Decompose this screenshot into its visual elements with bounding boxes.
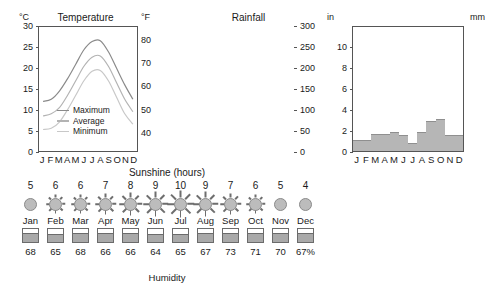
sun-ray (146, 194, 151, 199)
sun-ray (255, 195, 257, 198)
sun-ray (185, 208, 191, 214)
sun-ray (180, 190, 182, 197)
sun-ray (110, 208, 114, 212)
humidity-gauge (247, 228, 264, 243)
humidity-cell: 70 (268, 228, 293, 257)
sun-ray (110, 196, 114, 200)
month-letter: S (427, 154, 436, 165)
sunshine-value: 9 (153, 180, 159, 192)
month-letter: F (46, 154, 54, 165)
sunshine-cell: 10 (168, 180, 193, 215)
sunshine-value: 5 (278, 180, 284, 192)
sun-ray (160, 194, 165, 199)
sun-ray (220, 203, 224, 205)
humidity-gauge (47, 228, 64, 243)
sun-icon (294, 193, 318, 215)
sunshine-cell: 8 (118, 180, 143, 215)
sunshine-value: 6 (53, 180, 59, 192)
month-letter: J (399, 154, 408, 165)
month-name: Feb (47, 215, 63, 226)
sun-ray (112, 203, 116, 205)
sun-ray (235, 208, 239, 212)
month-letter: D (455, 154, 464, 165)
humidity-gauge-fill (48, 234, 63, 242)
axis-tick-label: 30 (23, 22, 33, 31)
month-name: May (122, 215, 140, 226)
month-name-cell: Aug (193, 215, 218, 226)
sunshine-cell: 7 (93, 180, 118, 215)
humidity-gauge-fill (298, 233, 313, 242)
humidity-cell: 66 (118, 228, 143, 257)
sun-ray (98, 196, 102, 200)
legend-label: Average (73, 116, 105, 127)
rainfall-bar (381, 134, 390, 151)
humidity-cell: 67 (193, 228, 218, 257)
humidity-gauge (297, 228, 314, 243)
axis-tick-mark (294, 26, 297, 27)
month-name-cell: Jan (18, 215, 43, 226)
humidity-gauge (22, 228, 39, 243)
sunshine-cell: 9 (193, 180, 218, 215)
month-letter: N (121, 154, 129, 165)
month-name: Jul (174, 215, 186, 226)
rainfall-inches-axis: 0246810 (328, 26, 350, 152)
humidity-cell: 65 (168, 228, 193, 257)
sun-ray (55, 211, 57, 214)
rainfall-bar (426, 121, 435, 151)
sun-ray (246, 203, 249, 205)
sun-ray (62, 203, 65, 205)
rainfall-bar (362, 140, 371, 151)
month-letter: O (436, 154, 445, 165)
sunshine-title: Sunshine (hours) (0, 167, 334, 178)
sun-ray (235, 196, 239, 200)
humidity-cell: 64 (143, 228, 168, 257)
humidity-gauge (197, 228, 214, 243)
axis-tick-label: 250 (300, 43, 315, 52)
rainfall-month-labels: JFMAMJJASOND (352, 154, 464, 165)
month-name-cell: May (118, 215, 143, 226)
sun-ray (80, 195, 82, 198)
legend-label: Minimum (73, 126, 107, 137)
humidity-gauge-fill (248, 233, 263, 242)
temperature-chart: °C Temperature °F 051015202530 405060708… (0, 0, 167, 172)
month-letter: J (408, 154, 417, 165)
humidity-gauge (72, 228, 89, 243)
sun-ray (98, 208, 102, 212)
axis-tick-label: 25 (23, 43, 33, 52)
month-letter: M (55, 154, 63, 165)
axis-tick-label: 0 (342, 148, 347, 157)
sun-ray (85, 208, 88, 211)
humidity-cell: 66 (93, 228, 118, 257)
sun-ray (237, 203, 241, 205)
sun-icon (269, 193, 293, 215)
humidity-gauge-fill (173, 234, 188, 242)
sun-ray (48, 197, 51, 200)
sun-disc (24, 198, 37, 211)
rainfall-right-unit: mm (470, 12, 485, 22)
sun-ray (55, 195, 57, 198)
sun-ray (260, 208, 263, 211)
sun-icon (19, 193, 43, 215)
humidity-gauge-fill (198, 233, 213, 242)
humidity-cell: 67% (293, 228, 318, 257)
sun-ray (143, 203, 149, 205)
sun-ray (210, 194, 215, 199)
month-name-cell: Mar (68, 215, 93, 226)
rainfall-chart: in Rainfall mm 0246810 05010015020025030… (167, 0, 334, 172)
month-name-cell: Nov (268, 215, 293, 226)
sun-disc (299, 198, 312, 211)
month-letter: M (389, 154, 398, 165)
rainfall-bar (408, 143, 417, 151)
axis-tick-label: 2 (342, 127, 347, 136)
month-name: Apr (98, 215, 113, 226)
sun-ray (105, 211, 107, 215)
month-name-cell: Oct (243, 215, 268, 226)
sunshine-value: 7 (103, 180, 109, 192)
rainfall-mm-axis: 050100150200250300 (297, 26, 319, 152)
legend-line-swatch (57, 110, 69, 112)
sun-ray (48, 208, 51, 211)
axis-tick-mark (294, 131, 297, 132)
sun-ray (122, 208, 127, 213)
sun-ray (185, 194, 191, 200)
temperature-fahrenheit-axis: 4050607080 (138, 26, 160, 152)
